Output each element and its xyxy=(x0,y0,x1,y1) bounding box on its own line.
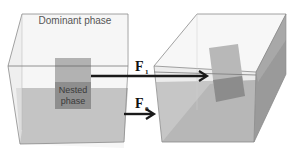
nested-phase-label-line2: phase xyxy=(61,96,86,106)
nested-phase-upper xyxy=(55,58,91,82)
f1-subscript: 1 xyxy=(145,68,149,76)
f0-label: F xyxy=(135,96,144,111)
f0-subscript: 0 xyxy=(145,105,149,113)
diagram-stage: Dominant phase Nested phase F 1 F 0 xyxy=(0,0,300,154)
left-container-box xyxy=(8,14,128,148)
f1-label: F xyxy=(135,59,144,74)
right-container-box xyxy=(154,14,286,142)
phase-diagram: Dominant phase Nested phase F 1 F 0 xyxy=(0,0,300,154)
dominant-phase-label: Dominant phase xyxy=(39,15,112,26)
nested-phase-label-line1: Nested xyxy=(59,85,88,95)
